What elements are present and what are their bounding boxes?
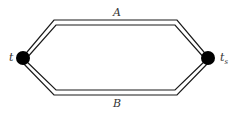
- path-a-label: A: [113, 7, 121, 18]
- path-a-outer: [22, 20, 209, 58]
- right-node-label-sub: s: [224, 58, 228, 66]
- path-a-inner: [25, 25, 206, 60]
- right-node: [201, 51, 215, 65]
- left-node: [16, 51, 30, 65]
- right-node-label: ts: [220, 52, 228, 66]
- left-node-label: t: [9, 52, 13, 63]
- left-node-label-text: t: [9, 51, 13, 64]
- path-b-inner: [25, 60, 206, 90]
- path-b-label: B: [113, 98, 121, 109]
